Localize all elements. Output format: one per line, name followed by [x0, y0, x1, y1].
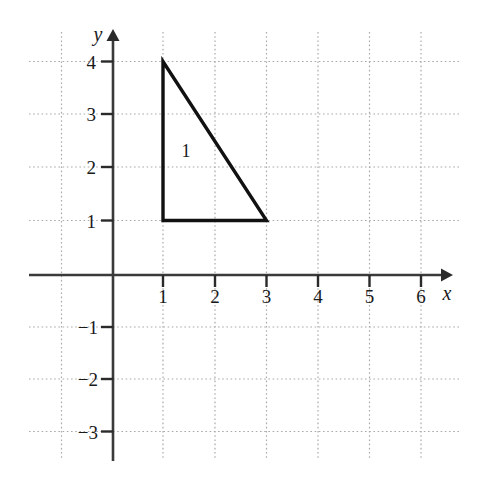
triangle-label: 1 — [182, 141, 191, 161]
y-tick-label-1: 1 — [87, 211, 97, 232]
x-tick-label-5: 5 — [365, 286, 375, 307]
y-tick-label-3: 3 — [87, 104, 97, 125]
y-tick-label-neg2: −2 — [78, 369, 98, 390]
x-axis-arrowhead — [441, 269, 453, 282]
y-axis-label: y — [92, 23, 103, 46]
x-tick-label-6: 6 — [416, 286, 426, 307]
grid-vertical-lines — [62, 32, 422, 460]
y-tick-label-neg1: −1 — [78, 317, 98, 338]
x-axis — [29, 269, 453, 288]
x-tick-label-2: 2 — [210, 286, 220, 307]
x-axis-label: x — [442, 282, 452, 304]
x-axis-ticks — [163, 275, 421, 287]
coordinate-plane-figure: 1 2 3 4 5 6 4 3 2 1 −1 −2 −3 y x 1 — [0, 0, 478, 479]
plot-svg: 1 2 3 4 5 6 4 3 2 1 −1 −2 −3 y x 1 — [0, 0, 478, 479]
x-tick-label-4: 4 — [313, 286, 323, 307]
y-axis-ticks — [101, 62, 113, 432]
y-tick-label-2: 2 — [87, 157, 97, 178]
y-axis-arrowhead — [107, 29, 120, 41]
y-tick-label-4: 4 — [87, 52, 97, 73]
y-axis — [101, 29, 120, 461]
x-tick-label-1: 1 — [158, 286, 168, 307]
x-tick-label-3: 3 — [262, 286, 272, 307]
y-tick-label-neg3: −3 — [78, 422, 98, 443]
